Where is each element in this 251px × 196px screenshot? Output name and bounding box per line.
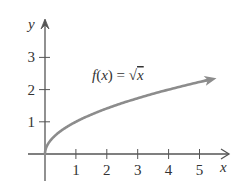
function-lhs-rest: ) = <box>108 67 129 84</box>
x-tick-label: 2 <box>103 162 111 178</box>
x-axis-label: x <box>219 159 227 175</box>
radicand: x <box>136 67 144 83</box>
sqrt-function-graph: 12345123 y x f(x) = √x <box>0 0 251 196</box>
x-tick-label: 1 <box>72 162 80 178</box>
y-tick-label: 1 <box>28 114 36 130</box>
x-tick-label: 4 <box>165 162 173 178</box>
x-tick-label: 5 <box>196 162 204 178</box>
y-tick-label: 2 <box>28 82 36 98</box>
function-label: f(x) = √x <box>92 67 144 84</box>
x-tick-label: 3 <box>134 162 142 178</box>
sqrt-curve <box>45 80 209 154</box>
y-tick-label: 3 <box>28 49 36 65</box>
curve-shaft <box>205 80 207 81</box>
y-axis-label: y <box>26 16 35 32</box>
curve <box>45 76 216 154</box>
